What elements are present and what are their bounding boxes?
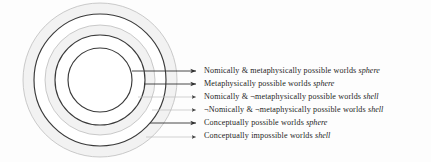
legend-kind: shell: [315, 131, 330, 140]
legend-kind: sphere: [306, 118, 327, 127]
legend-text: Nomically & metaphysically possible worl…: [204, 66, 359, 75]
legend-item-conceptually-impossible-worlds-shell[interactable]: Conceptually impossible worlds shell: [204, 131, 330, 140]
legend-item-metaphysically-possible-worlds-sphere[interactable]: Metaphysically possible worlds sphere: [204, 79, 334, 88]
legend-text: Nomically & ¬metaphysically possible wor…: [204, 92, 363, 101]
legend-item-not-nomically-and-not-metaphysically-possible-worlds-shell[interactable]: ¬Nomically & ¬metaphysically possible wo…: [204, 105, 383, 114]
legend-text: ¬Nomically & ¬metaphysically possible wo…: [204, 105, 368, 114]
legend-text: Conceptually impossible worlds: [204, 131, 315, 140]
legend-kind: sphere: [359, 66, 380, 75]
legend-kind: sphere: [313, 79, 334, 88]
legend-text: Conceptually possible worlds: [204, 118, 306, 127]
legend-item-nomically-and-metaphysically-possible-worlds-sphere[interactable]: Nomically & metaphysically possible worl…: [204, 66, 380, 75]
ring-group: [23, 3, 177, 157]
modal-spheres-figure: Nomically & metaphysically possible worl…: [0, 0, 431, 162]
legend-kind: shell: [363, 92, 378, 101]
legend-kind: shell: [368, 105, 383, 114]
legend-item-conceptually-possible-worlds-sphere[interactable]: Conceptually possible worlds sphere: [204, 118, 327, 127]
legend-text: Metaphysically possible worlds: [204, 79, 313, 88]
legend-item-nomically-and-not-metaphysically-possible-worlds-shell[interactable]: Nomically & ¬metaphysically possible wor…: [204, 92, 379, 101]
